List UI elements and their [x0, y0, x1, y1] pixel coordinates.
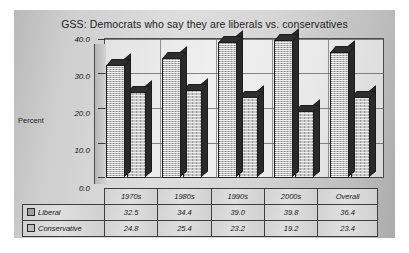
cell-liberal-1980s: 34.4	[158, 205, 211, 221]
bar-side-face	[180, 46, 187, 177]
y-tickmark-30	[98, 73, 105, 74]
y-tick-10: 10.0	[50, 146, 90, 155]
y-tick-40: 40.0	[50, 35, 90, 44]
bar-liberal-1970s	[106, 65, 125, 178]
cell-conservative-1980s: 25.4	[158, 221, 211, 237]
bar-liberal-2000s	[274, 40, 293, 178]
bar-side-face	[124, 53, 131, 177]
bar-front-face	[163, 59, 180, 177]
cell-conservative-overall: 23.4	[318, 221, 378, 237]
cell-liberal-1970s: 32.5	[105, 205, 158, 221]
category-separator-1	[160, 38, 161, 178]
bar-front-face	[275, 41, 292, 177]
bar-side-face	[201, 78, 208, 177]
chart-data-table: 1970s 1980s 1990s 2000s Overall Liberal …	[22, 188, 378, 237]
cell-conservative-1970s: 24.8	[105, 221, 158, 237]
column-header-1980s: 1980s	[158, 189, 211, 205]
series-label-liberal: Liberal	[38, 208, 61, 217]
column-header-overall: Overall	[318, 189, 378, 205]
cell-liberal-overall: 36.4	[318, 205, 378, 221]
legend-item-liberal: Liberal	[23, 205, 105, 221]
category-separator-2	[216, 38, 217, 178]
y-tickmark-0	[98, 177, 105, 178]
gridline-40	[104, 39, 384, 40]
table-corner-cell	[23, 189, 105, 205]
bar-front-face	[331, 53, 348, 177]
bar-front-face	[107, 66, 124, 177]
cell-conservative-1990s: 23.2	[211, 221, 264, 237]
plot-area	[94, 38, 384, 188]
bar-side-face	[348, 40, 355, 177]
cell-liberal-2000s: 39.8	[264, 205, 317, 221]
bar-side-face	[145, 80, 152, 177]
category-separator-4	[328, 38, 329, 178]
bar-side-face	[292, 28, 299, 177]
square-swatch-icon	[27, 224, 35, 232]
bar-liberal-1990s	[218, 42, 237, 178]
cell-conservative-2000s: 19.2	[264, 221, 317, 237]
table-row: Liberal 32.5 34.4 39.0 39.8 36.4	[23, 205, 378, 221]
column-header-1990s: 1990s	[211, 189, 264, 205]
y-tick-20: 20.0	[50, 109, 90, 118]
plot-left-wall	[94, 44, 106, 184]
y-tickmark-40	[98, 39, 105, 40]
bar-side-face	[257, 85, 264, 177]
y-tickmark-10	[98, 143, 105, 144]
bar-side-face	[236, 30, 243, 177]
bar-side-face	[369, 85, 376, 177]
bar-liberal-1980s	[162, 58, 181, 178]
bar-front-face	[219, 43, 236, 177]
series-label-conservative: Conservative	[38, 224, 82, 233]
category-separator-3	[272, 38, 273, 178]
legend-item-conservative: Conservative	[23, 221, 105, 237]
table-row: Conservative 24.8 25.4 23.2 19.2 23.4	[23, 221, 378, 237]
y-tick-30: 30.0	[50, 72, 90, 81]
table-header-row: 1970s 1980s 1990s 2000s Overall	[23, 189, 378, 205]
square-swatch-icon	[27, 208, 35, 216]
y-tickmark-20	[98, 108, 105, 109]
cell-liberal-1990s: 39.0	[211, 205, 264, 221]
bar-liberal-overall	[330, 52, 349, 178]
column-header-1970s: 1970s	[105, 189, 158, 205]
chart-container: GSS: Democrats who say they are liberals…	[14, 10, 395, 238]
column-header-2000s: 2000s	[264, 189, 317, 205]
